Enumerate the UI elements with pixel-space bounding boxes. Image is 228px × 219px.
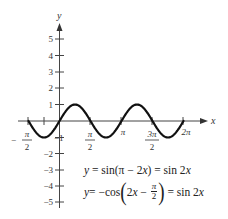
- y-tick-label: −1: [54, 133, 64, 143]
- x-tick-label-pi: π: [121, 127, 126, 137]
- x-tick-labels: − π 2 π 2 π 3π 2 2π: [11, 127, 191, 152]
- y-tick-label: 1: [49, 100, 54, 110]
- eq2-fraction: π 2: [151, 182, 158, 201]
- eq1-part: = sin(π − 2: [89, 164, 142, 176]
- eq2-open-paren: (: [120, 179, 126, 204]
- equation-2: y = −cos ( 2x − π 2 ) = sin 2x: [84, 182, 204, 201]
- x-tick-label-2pi: 2π: [181, 127, 191, 137]
- eq1-x: x: [186, 164, 191, 176]
- y-tick-label: 3: [49, 67, 54, 77]
- y-tick-label: 4: [49, 51, 54, 61]
- x-tick-label-den: 2: [88, 142, 93, 152]
- y-tick-label: 5: [49, 34, 54, 44]
- x-tick-label-num: π: [25, 129, 30, 139]
- eq2-part: = sin 2: [165, 186, 199, 198]
- x-axis-arrow-icon: [200, 118, 208, 124]
- x-tick-label-minus: −: [11, 135, 16, 145]
- x-tick-label-den: 2: [150, 142, 155, 152]
- x-axis-label: x: [210, 115, 216, 126]
- y-tick-label: −3: [43, 165, 53, 175]
- eq2-close-paren: ): [158, 179, 164, 204]
- y-tick-label: −4: [43, 181, 53, 191]
- y-tick-label: 2: [49, 83, 54, 93]
- eq2-x: x: [199, 186, 204, 198]
- eq2-part: = −cos: [89, 186, 120, 198]
- eq1-part: ) = sin 2: [148, 164, 186, 176]
- eq2-minus: −: [137, 186, 149, 198]
- y-tick-label: −5: [43, 197, 53, 207]
- x-tick-label-den: 2: [25, 142, 30, 152]
- equation-1: y = sin(π − 2x) = sin 2x: [84, 164, 191, 176]
- eq2-frac-den: 2: [152, 192, 157, 201]
- y-axis-arrow-icon: [57, 23, 63, 31]
- x-tick-label-num: π: [88, 129, 93, 139]
- y-tick-label: −2: [43, 149, 53, 159]
- y-axis-label: y: [56, 10, 62, 21]
- x-tick-label-num: 3π: [146, 129, 157, 139]
